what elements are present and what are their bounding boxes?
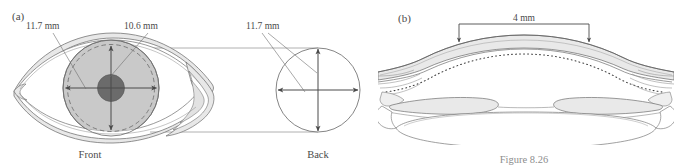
panel-a-label: (a) <box>12 10 25 23</box>
back-cornea-diagram: 11.7 mm Back <box>246 21 360 160</box>
iris-leaflet-right <box>554 97 663 114</box>
front-eye-diagram: 11.7 mm 10.6 mm Front <box>14 21 214 160</box>
dim-label-limbus-vertical: 10.6 mm <box>124 21 158 31</box>
front-view-label: Front <box>79 149 102 160</box>
dim-label-central-cornea: 4 mm <box>513 13 536 23</box>
iris-leaflet-left <box>390 97 499 114</box>
figure-caption: Figure 8.26 <box>500 154 548 165</box>
panel-b-label: (b) <box>398 12 411 25</box>
dim-label-back: 11.7 mm <box>246 21 280 31</box>
pupil-margin-line <box>498 107 554 108</box>
figure-8-26: (a) <box>0 0 700 165</box>
panel-b: (b) <box>376 12 676 148</box>
figure-canvas: (a) <box>0 0 700 165</box>
panel-a: (a) <box>12 10 360 160</box>
dim-label-limbus-horizontal: 11.7 mm <box>26 21 60 31</box>
back-view-label: Back <box>307 149 329 160</box>
corneal-stroma <box>378 35 674 80</box>
cornea-cross-section <box>376 35 676 148</box>
crystalline-lens <box>396 112 656 148</box>
